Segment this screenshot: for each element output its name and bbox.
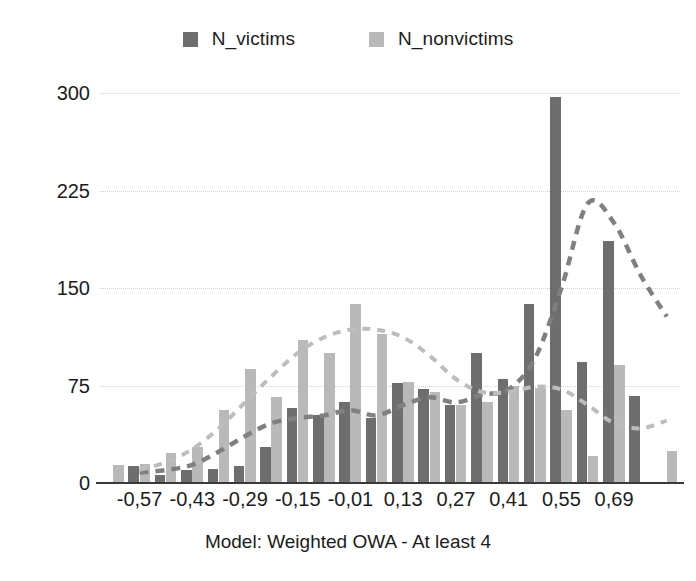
bar-n-victims-5 [234,466,245,483]
bar-n-nonvictims-16 [535,388,546,483]
bar-n-victims-19 [603,241,614,483]
legend-item-victims[interactable]: N_victims [183,28,295,50]
bar-n-nonvictims-0 [113,465,124,483]
bar-n-victims-16 [524,304,535,483]
bar-n-victims-10 [366,418,377,483]
x-tick-label-9: 0,69 [595,488,634,511]
x-tick-label-0: -0,57 [117,488,163,511]
bar-n-nonvictims-3 [192,447,203,483]
x-tick-label-7: 0,41 [489,488,528,511]
legend-label-victims: N_victims [212,28,295,50]
bar-n-nonvictims-19 [614,365,625,483]
x-tick-label-5: 0,13 [384,488,423,511]
bar-n-victims-17 [550,97,561,483]
bar-n-victims-4 [208,469,219,483]
bar-n-nonvictims-15 [509,386,520,484]
y-tick-label-150: 150 [6,277,90,300]
bar-n-nonvictims-21 [667,451,678,484]
y-tick-label-225: 225 [6,179,90,202]
chart-legend: N_victims N_nonvictims [0,24,696,54]
legend-swatch-victims [183,32,198,47]
bar-n-victims-9 [339,402,350,483]
x-tick-label-2: -0,29 [222,488,268,511]
legend-label-nonvictims: N_nonvictims [398,28,513,50]
y-tick-label-300: 300 [6,82,90,105]
bar-n-nonvictims-1 [140,464,151,484]
bar-n-nonvictims-8 [324,353,335,483]
bar-n-victims-8 [313,415,324,483]
x-tick-label-3: -0,15 [275,488,321,511]
bar-n-victims-11 [392,383,403,483]
bar-n-victims-1 [128,466,139,483]
bar-n-victims-12 [418,389,429,483]
bar-n-nonvictims-11 [403,382,414,483]
bar-n-nonvictims-14 [482,402,493,483]
plot-area [100,93,680,483]
bar-n-victims-14 [471,353,482,483]
legend-swatch-nonvictims [369,32,384,47]
y-axis: 075150225300 [0,0,90,581]
bar-n-nonvictims-9 [350,304,361,483]
chart-caption: Model: Weighted OWA - At least 4 [0,531,696,553]
bar-n-victims-20 [629,396,640,483]
chart-figure: N_victims N_nonvictims 075150225300 -0,5… [0,0,696,581]
x-axis-baseline [96,482,684,484]
bar-n-victims-13 [445,405,456,483]
bar-n-nonvictims-18 [588,456,599,483]
legend-item-nonvictims[interactable]: N_nonvictims [369,28,513,50]
y-tick-label-0: 0 [6,472,90,495]
x-tick-label-4: -0,01 [328,488,374,511]
bar-n-nonvictims-13 [456,405,467,483]
bar-n-nonvictims-5 [245,369,256,483]
bar-n-nonvictims-12 [430,392,441,483]
y-tick-label-75: 75 [6,374,90,397]
bar-n-victims-6 [260,447,271,483]
x-axis: -0,57-0,43-0,29-0,15-0,010,130,270,410,5… [100,488,680,518]
bar-n-nonvictims-6 [271,397,282,483]
bar-n-nonvictims-2 [166,453,177,483]
bar-series-container [100,93,680,483]
bar-n-nonvictims-17 [561,410,572,483]
bar-n-nonvictims-7 [298,340,309,483]
bar-n-victims-7 [287,408,298,483]
bar-n-victims-15 [498,379,509,483]
bar-n-nonvictims-4 [219,410,230,483]
x-tick-label-1: -0,43 [169,488,215,511]
bar-n-victims-18 [577,362,588,483]
bar-n-nonvictims-10 [377,334,388,484]
x-tick-label-8: 0,55 [542,488,581,511]
x-tick-label-6: 0,27 [436,488,475,511]
